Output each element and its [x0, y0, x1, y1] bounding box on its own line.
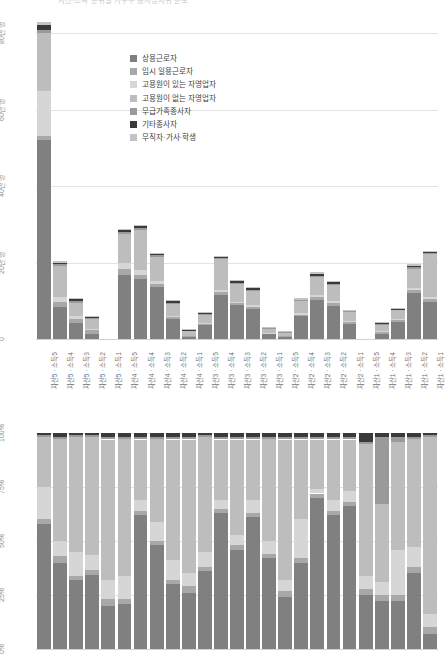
bar-segment — [343, 312, 357, 321]
bar-segment — [150, 284, 164, 287]
bar-column[interactable] — [278, 433, 292, 649]
bar-segment — [278, 597, 292, 649]
bar-column[interactable] — [134, 433, 148, 649]
bar-column[interactable] — [85, 433, 99, 649]
bar-segment — [230, 284, 244, 302]
bar-segment — [294, 315, 308, 317]
bar-column[interactable] — [423, 33, 437, 339]
bar-column[interactable] — [391, 433, 405, 649]
bar-column[interactable] — [423, 433, 437, 649]
bar-segment — [37, 25, 51, 30]
bar-segment — [327, 500, 341, 511]
bar-column[interactable] — [359, 33, 373, 339]
bar-segment — [407, 573, 421, 649]
bar-column[interactable] — [294, 433, 308, 649]
bar-segment — [423, 253, 437, 255]
bar-segment — [214, 258, 228, 260]
bar-column[interactable] — [262, 433, 276, 649]
bar-segment — [69, 580, 83, 649]
bar-column[interactable] — [53, 33, 67, 339]
bar-segment — [37, 91, 51, 136]
bar-segment — [85, 435, 99, 437]
bar-segment — [278, 440, 292, 580]
bar-column[interactable] — [327, 433, 341, 649]
bar-segment — [278, 331, 292, 332]
bar-segment — [37, 435, 51, 437]
bar-segment — [37, 433, 51, 435]
bar-column[interactable] — [69, 33, 83, 339]
x-axis-tick-label: 자산4 · 소득3 — [162, 352, 173, 426]
bar-segment — [407, 433, 421, 437]
legend-item[interactable]: 상용근로자 — [130, 52, 310, 65]
bar-segment — [166, 304, 180, 316]
bar-segment — [166, 560, 180, 579]
bar-segment — [134, 228, 148, 230]
bar-column[interactable] — [166, 433, 180, 649]
y-axis-tick-label: 20만 명 — [0, 233, 7, 293]
bar-column[interactable] — [198, 433, 212, 649]
bar-column[interactable] — [407, 33, 421, 339]
bar-column[interactable] — [118, 433, 132, 649]
bar-segment — [391, 322, 405, 339]
bar-segment — [53, 439, 67, 541]
bar-segment — [214, 440, 228, 500]
bar-segment — [230, 440, 244, 535]
bar-segment — [150, 439, 164, 521]
bar-column[interactable] — [101, 33, 115, 339]
bar-column[interactable] — [246, 433, 260, 649]
legend-item[interactable]: 임시 일용근로자 — [130, 65, 310, 78]
bar-column[interactable] — [53, 433, 67, 649]
bar-segment — [375, 437, 389, 504]
bar-segment — [294, 519, 308, 558]
bar-column[interactable] — [182, 433, 196, 649]
bar-segment — [150, 281, 164, 284]
bar-segment — [294, 298, 308, 299]
bar-segment — [246, 309, 260, 339]
bar-column[interactable] — [37, 433, 51, 649]
bar-segment — [85, 334, 99, 339]
bar-column[interactable] — [310, 433, 324, 649]
bar-segment — [166, 437, 180, 439]
bar-segment — [294, 433, 308, 437]
x-axis-tick-label: 자산3 · 소득5 — [210, 352, 221, 426]
bar-segment — [343, 324, 357, 339]
y-axis-tick-label: 100% — [0, 403, 7, 463]
legend-swatch-icon — [130, 95, 137, 102]
bar-segment — [85, 329, 99, 330]
bar-column[interactable] — [310, 33, 324, 339]
legend-item[interactable]: 고용원이 있는 자영업자 — [130, 78, 310, 91]
x-axis-tick-label: 자산1 · 소득5 — [371, 352, 382, 426]
bar-column[interactable] — [343, 33, 357, 339]
bar-column[interactable] — [375, 433, 389, 649]
bar-segment — [246, 291, 260, 306]
bar-segment — [150, 522, 164, 541]
bar-column[interactable] — [230, 433, 244, 649]
bar-column[interactable] — [327, 33, 341, 339]
axis-baseline — [36, 649, 438, 650]
bar-column[interactable] — [375, 33, 389, 339]
legend-item[interactable]: 무직자·가사·학생 — [130, 131, 310, 144]
x-axis-tick-label: 자산4 · 소득1 — [194, 352, 205, 426]
bar-column[interactable] — [69, 433, 83, 649]
bar-column[interactable] — [37, 33, 51, 339]
bar-column[interactable] — [391, 33, 405, 339]
bar-segment — [53, 433, 67, 437]
x-axis-tick-label: 자산2 · 소득3 — [322, 352, 333, 426]
bar-column[interactable] — [85, 33, 99, 339]
bar-column[interactable] — [214, 433, 228, 649]
bar-column[interactable] — [407, 433, 421, 649]
bar-column[interactable] — [343, 433, 357, 649]
legend-item[interactable]: 고용원이 없는 자영업자 — [130, 92, 310, 105]
y-axis-tick-label: 50% — [0, 511, 7, 571]
legend-item[interactable]: 기타종사자 — [130, 118, 310, 131]
bar-segment — [262, 439, 276, 541]
bar-segment — [53, 437, 67, 439]
bar-segment — [327, 440, 341, 500]
bar-column[interactable] — [359, 433, 373, 649]
bar-segment — [182, 337, 196, 339]
legend-item[interactable]: 무급가족종사자 — [130, 105, 310, 118]
bar-column[interactable] — [101, 433, 115, 649]
bar-segment — [230, 302, 244, 304]
bar-segment — [391, 601, 405, 649]
bar-column[interactable] — [150, 433, 164, 649]
